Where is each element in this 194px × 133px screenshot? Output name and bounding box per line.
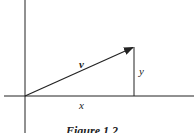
- y-component-label: y: [139, 66, 144, 77]
- figure-caption: Figure 1.2: [66, 124, 118, 133]
- vector-arrow: [25, 48, 133, 97]
- x-component-label: x: [79, 100, 84, 111]
- vector-label: v: [79, 59, 84, 70]
- vector-diagram: [0, 0, 194, 133]
